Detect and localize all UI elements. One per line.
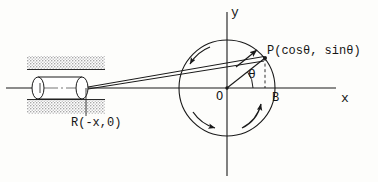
connecting-rod-upper-line [88,57,264,88]
point-o-marker [225,86,228,89]
diagram-svg [0,0,378,182]
origin-label: O [216,91,223,103]
rail-bottom-hatch [27,100,105,114]
angle-theta-label: θ [248,68,256,81]
rotation-arrow-upper-left [190,47,210,64]
radius-op [227,58,265,88]
connecting-rod [88,50,264,89]
point-r-label: R(-x,0) [71,117,121,129]
point-b-label: B [272,92,279,104]
x-axis-label: x [341,92,349,105]
diagram-canvas: y x O B θ P(cosθ, sinθ) R(-x,0) [0,0,378,182]
cylinder-left-cap [32,77,44,99]
point-p-label: P(cosθ, sinθ) [267,45,361,57]
y-axis-label: y [231,6,239,19]
piston-slider [32,77,88,99]
rail-top-hatch [27,56,105,69]
